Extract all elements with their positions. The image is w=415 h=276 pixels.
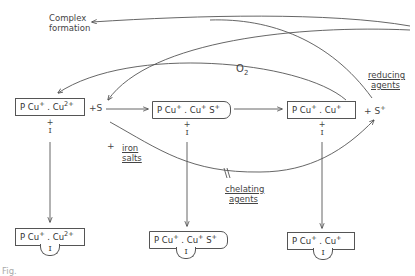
reducing-agents-label: reducing agents bbox=[368, 70, 405, 90]
reducing-line2: agents bbox=[368, 80, 405, 90]
sup: + bbox=[176, 103, 181, 111]
sup: + bbox=[215, 103, 220, 111]
inhibitor-symbol: I bbox=[182, 129, 192, 137]
complex-a-cu: . Cu bbox=[47, 102, 64, 112]
iron-plus: + bbox=[107, 141, 115, 151]
sup: + bbox=[311, 103, 316, 111]
o2-symbol: O bbox=[236, 63, 244, 74]
sup: 2+ bbox=[64, 230, 74, 238]
iron-line2: salts bbox=[122, 153, 142, 163]
complex-b-p: P Cu bbox=[157, 105, 176, 115]
chelating-line1: chelating bbox=[225, 184, 264, 194]
break-mark bbox=[224, 168, 230, 178]
sup: + bbox=[336, 234, 341, 242]
complex-cu: . Cu bbox=[47, 232, 64, 242]
plus-s-label: +S bbox=[89, 103, 102, 113]
chelating-agents-label: chelating agents bbox=[225, 184, 264, 204]
sup: + bbox=[39, 100, 44, 108]
plus-s-text: + S bbox=[364, 106, 380, 116]
complex-c-cu: . Cu bbox=[319, 105, 336, 115]
o2-subscript: 2 bbox=[244, 69, 248, 77]
complex-p: P Cu bbox=[154, 235, 173, 245]
complex-cu: . Cu bbox=[181, 235, 198, 245]
reducing-line1: reducing bbox=[368, 70, 405, 80]
sup: 2+ bbox=[64, 100, 74, 108]
complex-p: P Cu bbox=[292, 236, 311, 246]
complex-p: P Cu bbox=[20, 232, 39, 242]
complex-label-line2: formation bbox=[49, 23, 90, 33]
sup: + bbox=[201, 103, 206, 111]
figure-caption: Fig. bbox=[2, 266, 17, 276]
complex-c-box: P Cu+ . Cu+ bbox=[287, 101, 356, 119]
complex-a-box: P Cu+ . Cu2+ bbox=[15, 98, 85, 116]
complex-cu: . Cu bbox=[319, 236, 336, 246]
complex-b-cu: . Cu bbox=[184, 105, 201, 115]
iron-line1: iron bbox=[122, 143, 142, 153]
upper-arc bbox=[210, 20, 372, 98]
sup: + bbox=[380, 104, 385, 112]
inhibitor-symbol: I bbox=[45, 127, 55, 135]
complex-c-p: P Cu bbox=[292, 105, 311, 115]
inhibitor-b: +I bbox=[182, 121, 192, 137]
sup: + bbox=[39, 230, 44, 238]
complex-label-line1: Complex bbox=[49, 13, 90, 23]
sup: + bbox=[336, 103, 341, 111]
sup: + bbox=[198, 233, 203, 241]
iron-salts-label: iron salts bbox=[122, 143, 142, 163]
inhibitor-c: +I bbox=[317, 121, 327, 137]
complex-formation-arrow bbox=[92, 16, 410, 26]
sup: + bbox=[212, 233, 217, 241]
chelating-line2: agents bbox=[225, 194, 264, 204]
complex-b-box: P Cu+ . Cu+ S+ bbox=[152, 101, 231, 119]
o2-label: O2 bbox=[236, 64, 248, 78]
chelating-arrow bbox=[110, 120, 374, 172]
inhibitor-symbol: I bbox=[317, 129, 327, 137]
inhibitor-a: +I bbox=[45, 119, 55, 135]
sup: + bbox=[173, 233, 178, 241]
complex-a-p: P Cu bbox=[20, 102, 39, 112]
plus-s-plus-label: + S+ bbox=[364, 106, 386, 116]
oxidation-arrow bbox=[58, 63, 346, 100]
sup: + bbox=[311, 234, 316, 242]
complex-formation-label: Complex formation bbox=[49, 13, 90, 33]
